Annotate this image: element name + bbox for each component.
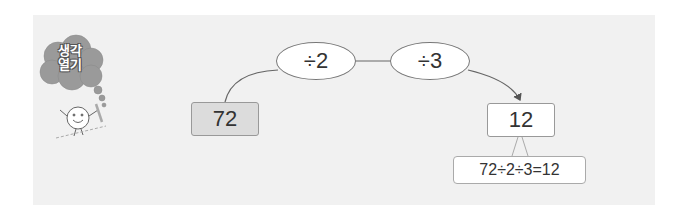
step-label: ÷3 xyxy=(418,48,442,74)
result-value-box: 12 xyxy=(487,103,555,137)
step-oval-1: ÷2 xyxy=(276,42,356,80)
connector-start-to-step1 xyxy=(225,70,278,102)
step-label: ÷2 xyxy=(304,48,328,74)
arrow-step2-to-result xyxy=(468,70,520,100)
callout-pointer xyxy=(512,137,528,156)
result-value: 12 xyxy=(509,107,533,133)
expression-callout: 72÷2÷3=12 xyxy=(453,156,586,184)
start-value: 72 xyxy=(213,106,237,132)
step-oval-2: ÷3 xyxy=(390,42,470,80)
start-value-box: 72 xyxy=(191,102,259,136)
expression-text: 72÷2÷3=12 xyxy=(479,161,559,179)
connector-lines xyxy=(0,0,692,216)
